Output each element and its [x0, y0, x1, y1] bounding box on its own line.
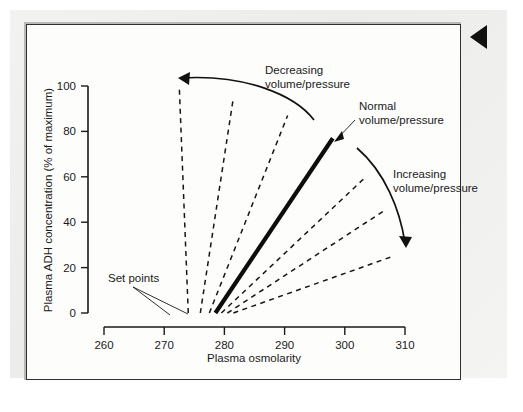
increasing-arrow-curve	[357, 148, 405, 243]
y-axis-tick-labels: 020406080100	[57, 80, 76, 319]
y-tick-label: 0	[70, 307, 76, 319]
x-tick-label: 290	[275, 339, 294, 351]
set-points-leader-1	[133, 287, 188, 314]
decreasing-label-line1: Decreasing	[265, 64, 323, 76]
x-tick-label: 280	[215, 339, 234, 351]
increasing-arrow-head	[399, 236, 412, 248]
annotation-decreasing: Decreasing volume/pressure	[178, 64, 350, 120]
decreasing-label-line2: volume/pressure	[265, 78, 350, 90]
normal-label-line1: Normal	[359, 100, 396, 112]
normal-label-line2: volume/pressure	[359, 114, 444, 126]
x-axis-ticks	[104, 327, 405, 335]
x-axis-title: Plasma osmolarity	[207, 352, 301, 364]
y-axis: 020406080100 Plasma ADH concentration (%…	[42, 80, 88, 319]
set-points-leader-2	[133, 287, 170, 315]
series-line	[200, 97, 233, 313]
annotation-normal: Normal volume/pressure	[334, 100, 444, 142]
x-tick-label: 270	[155, 339, 174, 351]
y-tick-label: 40	[63, 216, 76, 228]
figure-page: 020406080100 Plasma ADH concentration (%…	[0, 0, 523, 412]
y-tick-label: 100	[57, 80, 76, 92]
y-axis-ticks	[81, 86, 88, 313]
x-tick-label: 260	[94, 339, 113, 351]
adh-osmolarity-chart: 020406080100 Plasma ADH concentration (%…	[0, 0, 523, 412]
y-axis-title: Plasma ADH concentration (% of maximum)	[42, 88, 54, 312]
increasing-label-line1: Increasing	[393, 168, 446, 180]
annotation-set-points: Set points	[108, 272, 188, 315]
x-tick-label: 310	[395, 339, 414, 351]
x-axis: 260270280290300310 Plasma osmolarity	[94, 327, 414, 364]
series-line	[209, 116, 287, 313]
set-points-label: Set points	[108, 272, 159, 284]
increasing-label-line2: volume/pressure	[393, 182, 478, 194]
series-line	[179, 86, 188, 313]
y-tick-label: 60	[63, 171, 76, 183]
x-axis-tick-labels: 260270280290300310	[94, 339, 414, 351]
x-tick-label: 300	[335, 339, 354, 351]
y-tick-label: 80	[63, 125, 76, 137]
y-tick-label: 20	[63, 262, 76, 274]
annotation-increasing: Increasing volume/pressure	[357, 148, 478, 248]
series-line	[233, 256, 393, 313]
decreasing-arrow-head	[178, 72, 190, 85]
